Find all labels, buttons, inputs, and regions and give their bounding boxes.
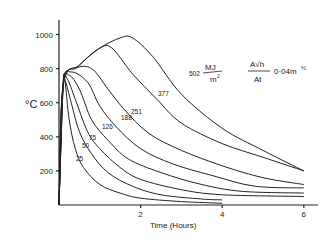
parameter-denominator: At <box>254 75 262 84</box>
parameter-value: 0·04m <box>274 67 297 76</box>
y-tick-label: 200 <box>40 167 54 176</box>
parameter-exponent: ½ <box>301 65 306 71</box>
curve-label-25: 25 <box>76 155 84 162</box>
curve-label-251: 251 <box>131 108 142 115</box>
x-tick-label: 6 <box>302 210 307 219</box>
y-tick-label: 800 <box>40 65 54 74</box>
y-tick-label: 400 <box>40 133 54 142</box>
temperature-curves <box>59 36 304 205</box>
curve-labels: 255075126188251377502 <box>76 70 200 162</box>
x-axis-label: Time (Hours) <box>150 221 197 230</box>
curve-label-126: 126 <box>102 123 113 130</box>
x-ticks: 246 <box>138 205 306 219</box>
curve-label-188: 188 <box>121 114 132 121</box>
units-numerator: MJ <box>205 63 216 72</box>
curve-label-377: 377 <box>158 90 169 97</box>
fire-temperature-chart: 2004006008001000 246 2550751261882513775… <box>0 0 334 240</box>
y-tick-label: 600 <box>40 99 54 108</box>
curve-50 <box>59 74 222 205</box>
axes <box>59 20 318 205</box>
units-denominator: m <box>210 75 217 84</box>
parameter-numerator: A√h <box>250 60 264 69</box>
parameter-annotation: A√h At 0·04m ½ <box>248 60 306 84</box>
y-axis-label: °C <box>25 98 37 110</box>
units-exponent: 2 <box>217 73 220 79</box>
curve-label-50: 50 <box>82 142 90 149</box>
units-annotation: MJ m 2 <box>203 63 222 84</box>
curve-label-75: 75 <box>89 134 97 141</box>
x-tick-label: 4 <box>220 210 225 219</box>
y-ticks: 2004006008001000 <box>35 31 59 176</box>
curve-label-502: 502 <box>189 70 200 77</box>
y-tick-label: 1000 <box>35 31 53 40</box>
x-tick-label: 2 <box>138 210 143 219</box>
